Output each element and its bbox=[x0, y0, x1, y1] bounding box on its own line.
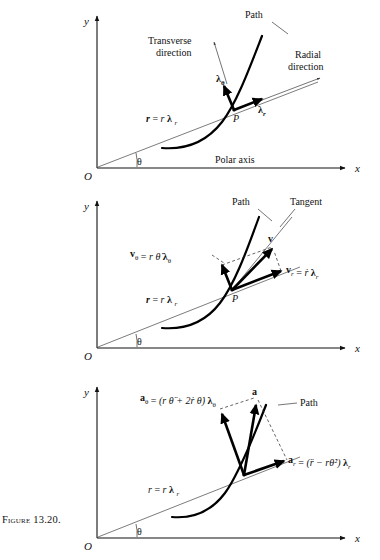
origin-label: O bbox=[84, 540, 92, 552]
radial-direction-label-1: Radial bbox=[295, 49, 321, 60]
velocity-panel: y x O θ P Tangent Path v vθ = r θ̇ λθ bbox=[0, 185, 380, 365]
lambda-theta-label: λθ bbox=[216, 73, 225, 87]
theta-label: θ bbox=[137, 336, 142, 347]
radial-direction-arrow bbox=[262, 78, 320, 100]
y-axis-label: y bbox=[83, 200, 89, 212]
radial-ray bbox=[98, 457, 300, 537]
acceleration-panel: y x O θ Path a aθ = (r θ̈ + 2ṙ θ̇) λθ a… bbox=[0, 365, 380, 560]
a-theta-vector bbox=[222, 414, 244, 475]
radial-ray bbox=[98, 82, 318, 167]
a-r-label: ar = (r̈ − rθ̇²) λr bbox=[288, 454, 351, 471]
v-theta-label: vθ = r θ̇ λθ bbox=[130, 248, 172, 265]
radial-ray bbox=[98, 267, 300, 347]
x-axis-label: x bbox=[354, 342, 360, 354]
y-axis-label: y bbox=[83, 15, 89, 27]
theta-label: θ bbox=[137, 526, 142, 537]
a-theta-label: aθ = (r θ̈ + 2ṙ θ̇) λθ bbox=[140, 392, 216, 409]
lambda-r-label: λr bbox=[258, 104, 266, 118]
position-vector-label: r = r λ r bbox=[148, 484, 179, 498]
tangent-label: Tangent bbox=[290, 196, 322, 207]
radial-direction-label-2: direction bbox=[288, 61, 324, 72]
polar-axis-label: Polar axis bbox=[215, 154, 255, 165]
figure-13-20: y x O θ P λθ λr Transverse direction Rad… bbox=[0, 0, 380, 560]
v-theta-vector bbox=[222, 265, 232, 290]
point-P-label: P bbox=[232, 113, 239, 124]
transverse-direction-label-1: Transverse bbox=[148, 35, 192, 46]
path-label: Path bbox=[300, 397, 318, 408]
point-P-label: P bbox=[231, 293, 238, 304]
position-vector-label: r = r λ r bbox=[146, 294, 177, 308]
figure-caption: Figure 13.20. bbox=[2, 514, 61, 525]
v-resultant-label: v bbox=[268, 233, 273, 244]
y-axis-label: y bbox=[83, 386, 89, 398]
a-r-vector bbox=[244, 461, 284, 475]
unit-vector-lambda-theta bbox=[224, 86, 234, 110]
origin-label: O bbox=[84, 350, 92, 362]
position-vector-label: r = r λ r bbox=[146, 113, 177, 127]
path-leader-line bbox=[278, 403, 297, 405]
path-leader-line bbox=[258, 209, 272, 221]
unit-vectors-panel: y x O θ P λθ λr Transverse direction Rad… bbox=[0, 0, 380, 185]
x-axis-label: x bbox=[354, 532, 360, 544]
transverse-direction-label-2: direction bbox=[156, 47, 192, 58]
path-label: Path bbox=[245, 9, 263, 20]
a-resultant-label: a bbox=[252, 386, 257, 397]
path-leader-line bbox=[272, 22, 288, 34]
theta-label: θ bbox=[137, 156, 142, 167]
path-label: Path bbox=[232, 196, 250, 207]
tangent-leader-line bbox=[280, 209, 295, 227]
v-r-label: vr = ṙ λr bbox=[286, 264, 319, 281]
particle-path bbox=[162, 217, 259, 328]
v-theta-leader bbox=[212, 255, 224, 263]
acceleration-parallelogram bbox=[220, 398, 287, 460]
origin-label: O bbox=[84, 170, 92, 182]
x-axis-label: x bbox=[354, 162, 360, 174]
a-resultant-vector bbox=[244, 405, 256, 475]
